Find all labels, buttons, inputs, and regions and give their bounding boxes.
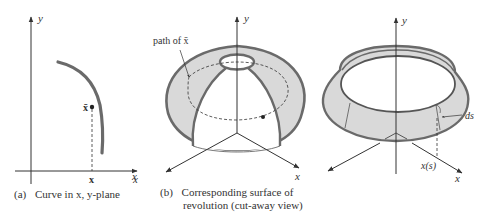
point-on-path bbox=[261, 115, 265, 119]
caption-b-line2: revolution (cut-away view) bbox=[183, 199, 303, 212]
y-axis-label: y bbox=[401, 14, 407, 26]
figure-canvas: y x x̄ x (a) Curve in x, y-plane path of… bbox=[0, 0, 493, 218]
radius-label: x(s) bbox=[420, 160, 437, 172]
panel-a: y x x̄ x (a) Curve in x, y-plane bbox=[14, 12, 138, 201]
annotation-text: path of x̄ bbox=[153, 35, 189, 46]
caption-text: Corresponding surface of bbox=[182, 186, 294, 198]
caption-b-line1: (b) Corresponding surface of bbox=[160, 186, 294, 199]
generating-curve bbox=[58, 62, 103, 153]
caption-tag: (b) bbox=[160, 186, 173, 199]
ds-label: ds bbox=[465, 110, 474, 121]
panel-b: path of x̄ y x x (b) Corresponding surfa… bbox=[131, 12, 304, 212]
y-axis-label: y bbox=[243, 12, 249, 24]
x-axis-label: x bbox=[294, 170, 300, 182]
x-axis-label-left: x bbox=[131, 170, 137, 182]
point-label: x̄ bbox=[83, 102, 88, 113]
point-x-bar bbox=[90, 105, 94, 109]
top-opening bbox=[341, 56, 455, 112]
x-axis-label: x bbox=[454, 172, 460, 184]
caption-text: Curve in x, y-plane bbox=[35, 188, 120, 200]
panel-c: y x x(s) ds bbox=[323, 14, 474, 184]
x-axis-left bbox=[328, 143, 380, 171]
caption-tag: (a) bbox=[14, 188, 27, 201]
caption-a: (a) Curve in x, y-plane bbox=[14, 188, 120, 201]
y-axis-label: y bbox=[37, 12, 43, 24]
path-annotation: path of x̄ bbox=[153, 35, 189, 46]
projection-label: x bbox=[89, 174, 94, 185]
ds-text: ds bbox=[465, 110, 474, 121]
